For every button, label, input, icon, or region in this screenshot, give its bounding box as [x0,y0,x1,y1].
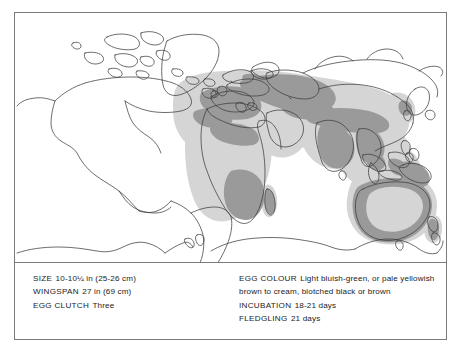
fact-label-size: SIZE [33,274,52,283]
fact-value-incubation: 18-21 days [295,301,337,310]
fact-row-egg-clutch: EGG CLUTCHThree [33,299,239,312]
fact-row-wingspan: WINGSPAN27 in (69 cm) [33,285,239,298]
fact-value-wingspan: 27 in (69 cm) [82,287,131,296]
fact-label-fledgling: FLEDGLING [239,314,288,323]
figure-plate: SIZE10-10¼ in (25-26 cm) WINGSPAN27 in (… [14,12,447,340]
fact-value-size: 10-10¼ in (25-26 cm) [56,274,136,283]
fact-column-left: SIZE10-10¼ in (25-26 cm) WINGSPAN27 in (… [15,272,239,339]
fact-label-egg-colour: EGG COLOUR [239,274,297,283]
fact-label-egg-clutch: EGG CLUTCH [33,301,89,310]
fact-column-right: EGG COLOURLight bluish-green, or pale ye… [239,272,446,339]
fact-row-fledgling: FLEDGLING21 days [239,312,446,325]
fact-label-incubation: INCUBATION [239,301,291,310]
species-fact-panel: SIZE10-10¼ in (25-26 cm) WINGSPAN27 in (… [15,263,446,339]
fact-label-wingspan: WINGSPAN [33,287,79,296]
world-map-svg [15,13,446,262]
fact-row-incubation: INCUBATION18-21 days [239,299,446,312]
distribution-map [15,13,446,262]
fact-row-egg-colour: EGG COLOURLight bluish-green, or pale ye… [239,272,446,299]
fact-value-fledgling: 21 days [291,314,320,323]
fact-row-size: SIZE10-10¼ in (25-26 cm) [33,272,239,285]
fact-value-egg-clutch: Three [92,301,114,310]
